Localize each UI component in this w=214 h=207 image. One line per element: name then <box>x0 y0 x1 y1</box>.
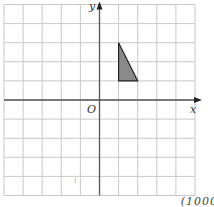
x-axis-label: x <box>190 104 196 115</box>
stray-mark: ꭍ <box>74 176 77 185</box>
origin-label: O <box>87 104 96 115</box>
footer-marks-text: (1000 <box>181 195 214 207</box>
coordinate-grid-diagram <box>0 0 214 207</box>
y-axis-label: y <box>89 1 95 12</box>
y-axis-arrow-icon <box>97 2 103 10</box>
